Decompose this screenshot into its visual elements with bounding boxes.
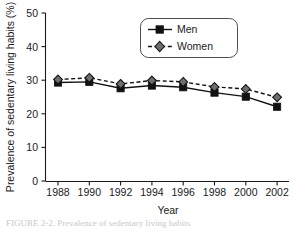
x-tick-label-1988: 1988 xyxy=(46,186,70,198)
y-tick-group xyxy=(42,13,46,181)
y-tick-label-20: 20 xyxy=(26,108,38,120)
x-tick-label-1998: 1998 xyxy=(203,186,227,198)
line-chart: 0 10 20 30 40 50 1988 1990 1992 1994 199… xyxy=(0,0,294,228)
y-tick-label-50: 50 xyxy=(26,7,38,19)
legend-label-women: Women xyxy=(177,40,213,52)
data-point-men-2000 xyxy=(242,93,249,100)
data-point-women-2002 xyxy=(273,93,282,102)
figure-caption-strip: FIGURE 2-2. Prevalence of sedentary livi… xyxy=(0,220,294,228)
series-men xyxy=(54,78,280,110)
x-tick-label-1992: 1992 xyxy=(109,186,133,198)
data-point-women-2000 xyxy=(241,85,250,94)
x-tick-label-1990: 1990 xyxy=(78,186,102,198)
x-tick-label-1994: 1994 xyxy=(140,186,164,198)
x-tick-label-1996: 1996 xyxy=(172,186,196,198)
x-tick-labels: 1988 1990 1992 1994 1996 1998 2000 2002 xyxy=(46,186,289,198)
legend-marker-men-square xyxy=(156,26,163,33)
x-tick-label-2000: 2000 xyxy=(234,186,258,198)
y-tick-label-40: 40 xyxy=(26,41,38,53)
x-tick-group xyxy=(58,182,277,186)
data-point-men-2002 xyxy=(274,103,281,110)
y-tick-label-10: 10 xyxy=(26,141,38,153)
x-tick-label-2002: 2002 xyxy=(265,186,289,198)
legend: Men Women xyxy=(141,19,238,58)
y-tick-label-30: 30 xyxy=(26,74,38,86)
legend-label-men: Men xyxy=(177,23,198,35)
y-tick-label-0: 0 xyxy=(32,175,38,187)
series-layer xyxy=(54,73,282,110)
y-tick-labels: 0 10 20 30 40 50 xyxy=(26,7,38,187)
y-axis-title: Prevalence of sedentary living habits (%… xyxy=(4,2,16,192)
figure-caption: FIGURE 2-2. Prevalence of sedentary livi… xyxy=(6,220,190,228)
figure-container: 0 10 20 30 40 50 1988 1990 1992 1994 199… xyxy=(0,0,294,228)
x-axis-title: Year xyxy=(157,204,179,216)
